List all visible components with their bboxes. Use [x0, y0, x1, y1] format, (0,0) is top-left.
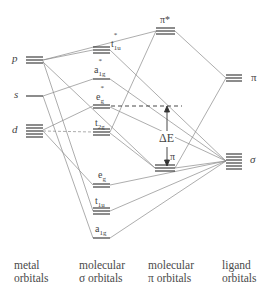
label-metal-s: s [14, 88, 18, 100]
label-a1g-star-sub: 1g [98, 70, 105, 78]
label-pi: π [170, 151, 175, 162]
label-t1u-star: t*1u [111, 38, 121, 52]
level-ligand-sigma [226, 154, 242, 169]
level-pi-star [156, 28, 175, 34]
label-t1u: t1u [95, 195, 105, 209]
level-t1u-star [93, 47, 110, 53]
mo-diagram [0, 0, 272, 291]
label-eg-sub: g [102, 175, 106, 183]
label-ligand-pi: π [251, 71, 257, 83]
column-label-mo-pi-line1: molecular [148, 259, 194, 272]
level-eg [93, 184, 110, 187]
label-a1g-star: a*1g [94, 64, 105, 78]
label-a1g: a1g [95, 223, 106, 237]
column-label-mo-sigma-line1: molecular [79, 259, 125, 272]
label-pi-star: π* [160, 14, 170, 25]
label-t1u-sub: 1u [98, 201, 105, 209]
level-metal-p [26, 57, 43, 63]
label-eg-star: e*g [96, 91, 104, 105]
level-metal-d [26, 125, 43, 137]
column-label-metal: metal orbitals [14, 259, 49, 285]
label-t1u-star-sup: * [114, 31, 118, 39]
column-label-metal-line2: orbitals [14, 272, 49, 285]
label-delta-e: ΔE [158, 131, 175, 146]
column-label-ligand: ligand orbitals [222, 259, 257, 285]
column-label-mo-sigma: molecular σ orbitals [79, 259, 125, 285]
label-eg: eg [98, 169, 106, 183]
label-t2g: t2g [95, 117, 105, 131]
label-t1u-star-sub: 1u [114, 44, 121, 52]
label-a1g-sub: 1g [99, 229, 106, 237]
label-a1g-star-sup: * [98, 57, 102, 65]
column-label-mo-pi-line2: π orbitals [148, 272, 194, 285]
column-label-metal-line1: metal [14, 259, 49, 272]
energy-levels [26, 28, 242, 238]
label-eg-star-sup: * [100, 84, 104, 92]
column-label-ligand-line2: orbitals [222, 272, 257, 285]
label-ligand-sigma: σ [250, 153, 255, 165]
column-label-ligand-line1: ligand [222, 259, 257, 272]
column-label-mo-pi: molecular π orbitals [148, 259, 194, 285]
column-label-mo-sigma-line2: σ orbitals [79, 272, 125, 285]
level-pi [155, 165, 175, 171]
label-eg-star-sub: g [100, 97, 104, 105]
label-t2g-sub: 2g [98, 123, 105, 131]
level-eg-star [93, 105, 110, 108]
level-ligand-pi [226, 75, 242, 81]
label-metal-d: d [12, 123, 18, 135]
label-metal-p: p [12, 52, 18, 64]
connector-lines [43, 31, 226, 238]
